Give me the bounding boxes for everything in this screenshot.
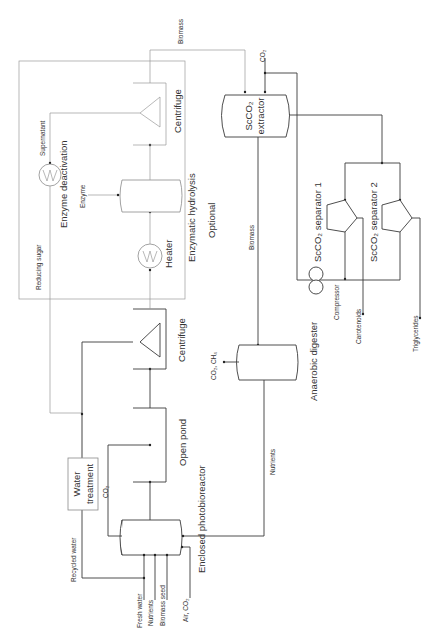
scco2-separator-1	[327, 200, 357, 232]
enzyme-deactivation-label: Enzyme deactivation	[58, 140, 69, 228]
recycled-water-label: Recycled water	[70, 537, 78, 582]
triglycerides-label: Triglycerides	[412, 315, 420, 352]
enclosed-photobioreactor	[120, 520, 182, 555]
centrifuge-1-label: Centrifuge	[176, 318, 187, 362]
co2-pond-label: CO₂	[102, 485, 109, 498]
anaerobic-digester-label: Anaerobic digester	[308, 322, 319, 401]
optional-label: Optional	[206, 203, 217, 238]
centrifuge-1	[133, 309, 166, 369]
enzyme-label: Enzyme	[79, 184, 87, 208]
co2-ch4-label: CO₂, CH₄	[210, 352, 217, 380]
enzymatic-hydrolysis-label: Enzymatic hydrolysis	[186, 173, 197, 262]
enclosed-photobioreactor-label: Enclosed photobioreactor	[196, 465, 207, 573]
nutrients-recycle-label: Nutrients	[269, 448, 276, 475]
scco2-extractor-label-2: extractor	[255, 98, 266, 135]
water-treatment-label-1: Water	[71, 472, 82, 497]
open-pond-label: Open pond	[177, 419, 188, 466]
scco2-separator-2-label: ScCO₂ separator 2	[368, 182, 379, 262]
compressor-label: Compressor	[333, 284, 341, 320]
centrifuge-2-label: Centrifuge	[172, 89, 183, 133]
anaerobic-digester	[237, 345, 299, 380]
carotenoids-label: Carotenoids	[355, 308, 362, 344]
process-flow-diagram: Enclosed photobioreactor Fresh water Nut…	[0, 0, 435, 628]
scco2-extractor-label-1: ScCO₂	[243, 101, 254, 130]
water-treatment-label-2: treatment	[84, 464, 95, 504]
fresh-water-label: Fresh water	[136, 593, 143, 628]
compressor	[309, 267, 323, 294]
supernatant-label: Supernatant	[39, 120, 47, 156]
scco2-separator-1-label: ScCO₂ separator 1	[312, 182, 323, 262]
reducing-sugar-label: Reducing sugar	[35, 244, 43, 290]
centrifuge-2	[133, 83, 166, 145]
scco2-separator-2	[382, 200, 412, 232]
heater	[138, 244, 162, 268]
nutrients-in-label: Nutrients	[147, 599, 154, 626]
biomass-to-digester-label: Biomass	[248, 224, 255, 250]
enzymatic-hydrolysis-vessel	[120, 180, 182, 212]
biomass-seed-label: Biomass seed	[159, 585, 166, 626]
heater-label: Heater	[163, 239, 174, 268]
co2-extractor-label: CO₂	[259, 49, 266, 62]
biomass-top-label: Biomass	[177, 18, 184, 44]
air-co2-label: Air, CO₂	[182, 598, 189, 622]
